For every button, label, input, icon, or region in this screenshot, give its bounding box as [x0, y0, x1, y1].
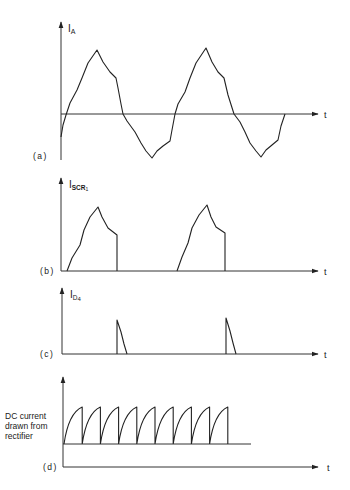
y-axis-label: IA: [68, 23, 76, 35]
panel-d: t (d) DC current drawn from rectifier: [5, 377, 330, 473]
y-axis-label: ISCR1: [69, 179, 89, 192]
line-current-waveform: [61, 48, 285, 158]
dc-sawtooth-waveform: [64, 407, 228, 444]
x-axis-label: t: [327, 463, 330, 473]
diode-spike: [226, 318, 236, 354]
panel-a: IA t (a): [33, 22, 327, 161]
diode-spike: [117, 320, 127, 354]
scr-pulse: [177, 205, 225, 271]
x-axis-label: t: [324, 267, 327, 277]
panel-c: ID4 t (c): [40, 288, 327, 360]
y-axis-label: ID4: [70, 289, 81, 302]
scr-current-pulses: [67, 205, 225, 271]
scr-pulse: [67, 207, 117, 271]
side-label-line-1: DC current: [5, 411, 47, 421]
panel-tag: (c): [40, 349, 54, 359]
side-label-line-3: rectifier: [5, 431, 33, 441]
waveform-figure: IA t (a) ISCR1 t (b) ID4 t (c) t (d) DC …: [0, 0, 350, 490]
x-axis-label: t: [324, 110, 327, 120]
diode-current-spikes: [117, 318, 236, 354]
panel-b: ISCR1 t (b): [40, 178, 327, 277]
panel-tag: (d): [43, 462, 58, 472]
x-axis-label: t: [324, 350, 327, 360]
panel-tag: (a): [33, 151, 48, 161]
panel-tag: (b): [40, 266, 55, 276]
side-label-line-2: drawn from: [5, 421, 48, 431]
